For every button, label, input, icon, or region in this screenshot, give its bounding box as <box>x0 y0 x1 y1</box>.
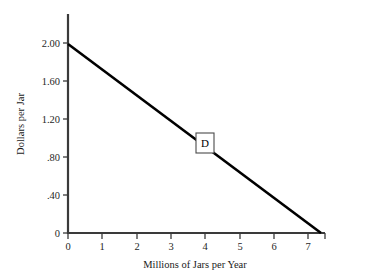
x-tick-label-5: 5 <box>237 241 242 252</box>
x-tick-label-7: 7 <box>305 241 310 252</box>
y-tick-label-120: 1.20 <box>42 114 60 125</box>
y-axis-tick-labels: 0 .40 .80 1.20 1.60 2.00 <box>42 38 60 239</box>
demand-curve-line <box>68 44 321 233</box>
y-axis-title: Dollars per Jar <box>15 93 26 155</box>
x-axis-tick-labels: 0 1 2 3 4 5 6 7 <box>65 241 310 252</box>
axes-group <box>68 14 325 234</box>
x-tick-label-6: 6 <box>271 241 276 252</box>
y-tick-label-0: 0 <box>55 228 60 239</box>
y-tick-label-040: .40 <box>47 190 60 201</box>
demand-curve-figure: 0 .40 .80 1.20 1.60 2.00 0 1 2 3 4 5 <box>0 0 368 280</box>
x-axis-title: Millions of Jars per Year <box>143 259 247 270</box>
demand-curve-label-group: D <box>196 133 214 153</box>
demand-curve-label-text: D <box>201 137 209 149</box>
y-tick-label-160: 1.60 <box>42 76 60 87</box>
x-tick-label-2: 2 <box>134 241 139 252</box>
y-tick-label-080: .80 <box>47 152 60 163</box>
x-tick-label-4: 4 <box>202 241 208 252</box>
x-tick-label-0: 0 <box>65 241 70 252</box>
x-tick-label-1: 1 <box>99 241 104 252</box>
x-tick-label-3: 3 <box>168 241 173 252</box>
y-tick-label-200: 2.00 <box>42 38 60 49</box>
chart-canvas: 0 .40 .80 1.20 1.60 2.00 0 1 2 3 4 5 <box>0 0 368 280</box>
